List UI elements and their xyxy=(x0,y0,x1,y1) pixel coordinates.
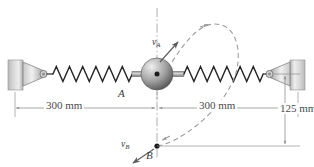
label-velocity-a-subscript: A xyxy=(156,41,160,48)
label-velocity-b: vB xyxy=(121,140,129,150)
dimension-label-right-span: 300 mm xyxy=(197,100,237,111)
velocity-arrow-icon-a xyxy=(160,42,178,62)
label-point-a: A xyxy=(118,88,125,99)
wall-anchor-icon-right xyxy=(266,60,305,90)
figure-canvas: A B vA vB 300 mm 300 mm 125 mm xyxy=(0,0,314,167)
label-velocity-a: vA xyxy=(152,38,160,48)
spring-icon-left xyxy=(47,67,145,82)
wall-anchor-icon-left xyxy=(8,60,47,90)
dimension-label-vertical-drop: 125 mm xyxy=(278,103,314,114)
dimension-label-left-span: 300 mm xyxy=(44,100,84,111)
dashed-trajectory-icon xyxy=(158,24,238,146)
diagram-svg xyxy=(0,0,314,167)
label-velocity-b-subscript: B xyxy=(125,143,129,150)
spring-icon-right xyxy=(171,67,266,82)
label-point-b: B xyxy=(146,150,153,161)
collar-ball-icon xyxy=(141,58,173,90)
